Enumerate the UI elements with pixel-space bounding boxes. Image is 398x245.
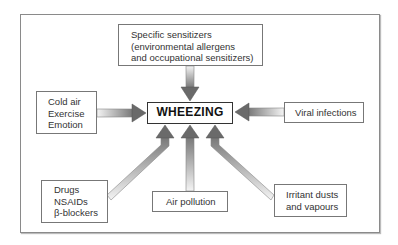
irritants-line-1: Irritant dusts (286, 189, 346, 201)
air-pollution-line-1: Air pollution (166, 196, 227, 208)
drugs-line-2: NSAIDs (54, 196, 107, 208)
box-viral-infections: Viral infections (284, 102, 364, 123)
arrow-air-pollution (181, 125, 199, 191)
arrow-irritants (206, 125, 274, 200)
sensitizers-line-2: (environmental allergens (131, 41, 262, 53)
irritants-line-2: and vapours (286, 201, 346, 213)
wheezing-box: WHEEZING (147, 102, 233, 124)
wheezing-label: WHEEZING (156, 105, 223, 119)
arrow-viral (235, 103, 284, 121)
drugs-line-3: β-blockers (54, 207, 107, 219)
box-specific-sensitizers: Specific sensitizers (environmental alle… (118, 24, 263, 66)
physical-line-3: Emotion (48, 119, 96, 131)
arrow-drugs (107, 125, 174, 200)
box-physical-triggers: Cold air Exercise Emotion (36, 91, 97, 134)
box-drugs: Drugs NSAIDs β-blockers (41, 180, 108, 223)
arrow-physical (97, 104, 146, 122)
box-air-pollution: Air pollution (152, 191, 228, 212)
physical-line-1: Cold air (48, 96, 96, 108)
drugs-line-1: Drugs (54, 184, 107, 196)
arrow-sensitizers (181, 66, 199, 101)
sensitizers-line-3: and occupational sensitizers) (131, 52, 262, 64)
viral-line-1: Viral infections (295, 107, 363, 119)
box-irritants: Irritant dusts and vapours (274, 184, 347, 217)
physical-line-2: Exercise (48, 108, 96, 120)
sensitizers-line-1: Specific sensitizers (131, 29, 262, 41)
